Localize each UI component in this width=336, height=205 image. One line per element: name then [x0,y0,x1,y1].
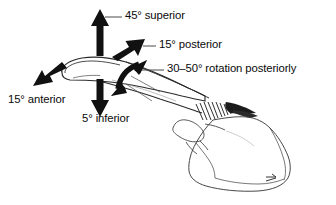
label-inferior: 5° inferior [82,113,129,124]
arrow-posterior [112,39,145,61]
arrow-superior [91,9,109,56]
label-posterior: 15° posterior [159,39,222,50]
acromion-wedge [225,102,258,118]
label-rotation: 30–50° rotation posteriorly [167,63,296,74]
scapula-bone [173,117,290,192]
figure-canvas: 45° superior 15° posterior 30–50° rotati… [0,0,336,205]
label-superior: 45° superior [125,10,185,21]
label-anterior: 15° anterior [8,94,65,105]
